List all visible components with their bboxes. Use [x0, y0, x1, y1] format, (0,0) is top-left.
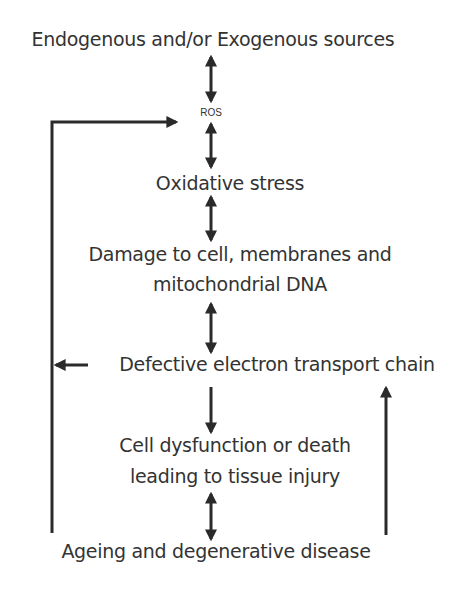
node-ageing: Ageing and degenerative disease [40, 540, 392, 563]
ros-ageing-flow-diagram: Endogenous and/or Exogenous sources ROS … [0, 0, 470, 589]
node-oxidative-stress: Oxidative stress [130, 172, 330, 195]
node-sources: Endogenous and/or Exogenous sources [0, 28, 426, 51]
node-defective-etc: Defective electron transport chain [92, 353, 462, 376]
node-cell-dysfunction-line2: leading to tissue injury [90, 465, 380, 488]
node-ros: ROS [191, 107, 231, 119]
node-cell-dysfunction-line1: Cell dysfunction or death [90, 434, 380, 457]
node-damage-line1: Damage to cell, membranes and [40, 243, 440, 266]
node-damage-line2: mitochondrial DNA [40, 273, 440, 296]
